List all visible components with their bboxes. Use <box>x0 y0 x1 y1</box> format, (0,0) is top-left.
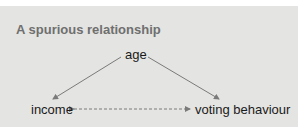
node-income: income <box>31 102 73 117</box>
edge-age-income <box>53 57 121 99</box>
edge-age-voting <box>148 57 219 99</box>
diagram-panel: A spurious relationship age income votin… <box>0 6 298 127</box>
node-voting-behaviour: voting behaviour <box>195 102 290 117</box>
node-age: age <box>125 47 147 62</box>
